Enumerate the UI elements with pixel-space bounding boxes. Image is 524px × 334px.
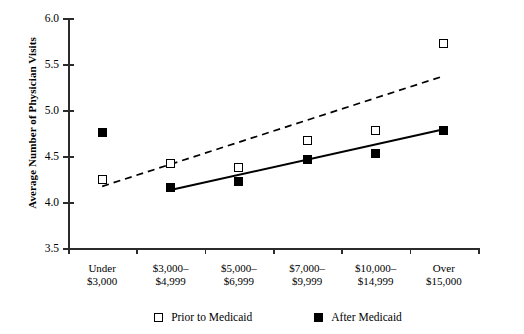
y-tick-label: 4.5 [45,148,59,164]
y-tick-label: 3.5 [45,240,59,256]
x-tick-label-line: $15,000 [399,275,489,288]
x-tick-mark [478,248,480,254]
chart-figure: Average Number of Physician Visits 3.54.… [0,0,524,334]
plot-area: 3.54.04.55.05.56.0 Under$3,000$3,000–$4,… [68,18,478,248]
legend-swatch-open-square [154,313,163,322]
data-point-open-square [439,39,448,48]
legend-label: After Medicaid [331,311,402,323]
data-point-filled-square [371,149,380,158]
data-point-open-square [98,175,107,184]
legend-entry: Prior to Medicaid [154,311,252,323]
data-point-open-square [303,136,312,145]
legend-swatch-filled-square [314,313,323,322]
x-tick-label-line: Over [399,262,489,275]
data-point-filled-square [439,126,448,135]
x-tick-label: Over$15,000 [399,262,489,288]
legend-label: Prior to Medicaid [171,311,252,323]
data-point-open-square [371,126,380,135]
chart-legend: Prior to MedicaidAfter Medicaid [68,306,488,328]
y-tick-label: 6.0 [45,10,59,26]
data-point-filled-square [98,128,107,137]
trend-lines [68,18,478,249]
data-point-filled-square [234,177,243,186]
y-tick-label: 5.0 [45,102,59,118]
data-point-filled-square [303,155,312,164]
data-point-open-square [234,163,243,172]
data-point-filled-square [166,183,175,192]
legend-entry: After Medicaid [314,311,402,323]
trend-line-prior-to-medicaid [102,76,444,186]
data-point-open-square [166,159,175,168]
y-axis-title: Average Number of Physician Visits [22,0,42,248]
y-tick-label: 5.5 [45,56,59,72]
y-tick-label: 4.0 [45,194,59,210]
